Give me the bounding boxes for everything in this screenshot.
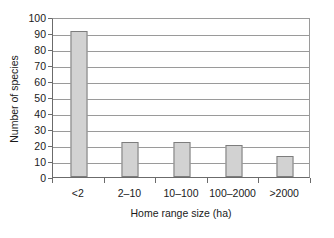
bar	[225, 145, 242, 177]
x-axis-tick-label: 100–2000	[209, 186, 256, 200]
bar-slot	[208, 19, 260, 177]
plot-area	[52, 18, 310, 178]
x-axis-tick-mark	[207, 178, 208, 183]
y-axis-tick-mark	[48, 82, 52, 83]
x-axis-tick-mark	[52, 178, 53, 183]
y-axis-tick-label: 50	[18, 93, 46, 103]
y-axis-tick-mark	[48, 130, 52, 131]
y-axis-tick-label: 40	[18, 109, 46, 119]
y-axis-tick-label: 100	[18, 13, 46, 23]
y-axis-tick-label: 60	[18, 77, 46, 87]
x-axis-tick-label: <2	[72, 186, 84, 200]
bar-slot	[259, 19, 311, 177]
x-axis-tick-mark	[258, 178, 259, 183]
y-axis-tick-labels: 1009080706050403020100	[18, 18, 46, 178]
y-axis-tick-mark	[48, 34, 52, 35]
y-axis-tick-label: 20	[18, 141, 46, 151]
y-axis-tick-label: 90	[18, 29, 46, 39]
y-axis-tick-mark	[48, 66, 52, 67]
x-axis-tick-label: >2000	[269, 186, 299, 200]
y-axis-tick-label: 80	[18, 45, 46, 55]
x-axis-tick-label: 10–100	[163, 186, 198, 200]
x-axis-tick-label: 2–10	[118, 186, 141, 200]
bar	[277, 156, 294, 177]
y-axis-tick-mark	[48, 162, 52, 163]
bar	[70, 31, 87, 177]
x-axis-tick-labels: <22–1010–100100–2000>2000	[52, 186, 310, 202]
bar-slot	[105, 19, 157, 177]
x-axis-tick-mark	[155, 178, 156, 183]
y-axis-tick-label: 70	[18, 61, 46, 71]
bar	[122, 142, 139, 177]
y-axis-tick-mark	[48, 146, 52, 147]
y-axis-tick-label: 30	[18, 125, 46, 135]
x-axis-tick-mark	[310, 178, 311, 183]
bars	[53, 19, 309, 177]
y-axis-tick-label: 10	[18, 157, 46, 167]
bar-slot	[156, 19, 208, 177]
bar	[173, 142, 190, 177]
y-axis-tick-mark	[48, 114, 52, 115]
x-axis-title: Home range size (ha)	[52, 206, 310, 220]
y-axis-tick-mark	[48, 18, 52, 19]
y-axis-tick-label: 0	[18, 173, 46, 183]
bar-slot	[53, 19, 105, 177]
x-axis-tick-mark	[104, 178, 105, 183]
y-axis-tick-mark	[48, 98, 52, 99]
y-axis-tick-mark	[48, 50, 52, 51]
bar-chart: Number of species 1009080706050403020100…	[0, 0, 334, 238]
